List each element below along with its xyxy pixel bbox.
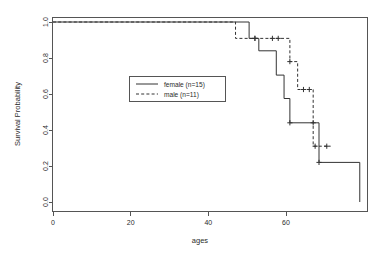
legend: female (n=15) male (n=11) <box>130 77 226 102</box>
y-tick-label: 0.4 <box>42 125 49 135</box>
y-tick-label: 1.0 <box>42 17 49 27</box>
series-female <box>53 22 360 202</box>
legend-label-female: female (n=15) <box>164 81 205 89</box>
censor-mark-icon <box>276 36 281 41</box>
censor-mark-icon <box>287 120 292 125</box>
censor-mark-icon <box>270 36 275 41</box>
y-tick-label: 0.2 <box>42 161 49 171</box>
y-axis-ticks: 0.00.20.40.60.81.0 <box>42 17 53 207</box>
survival-curve <box>53 22 360 202</box>
y-tick-label: 0.0 <box>42 197 49 207</box>
censor-mark-icon <box>307 87 312 92</box>
x-tick-label: 60 <box>282 219 290 226</box>
censor-mark-icon <box>301 87 306 92</box>
x-tick-label: 20 <box>127 219 135 226</box>
censor-mark-icon <box>316 160 321 165</box>
plot-frame <box>53 18 368 212</box>
censor-mark-icon <box>287 59 292 64</box>
censor-mark-icon <box>324 144 329 149</box>
survival-chart: 0.00.20.40.60.81.0 0204060 female (n=15)… <box>0 0 384 257</box>
y-tick-label: 0.8 <box>42 53 49 63</box>
x-axis-ticks: 0204060 <box>51 212 290 226</box>
y-tick-label: 0.6 <box>42 89 49 99</box>
chart-canvas: 0.00.20.40.60.81.0 0204060 female (n=15)… <box>0 0 384 257</box>
x-axis-title: ages <box>192 236 209 245</box>
y-axis-title: Survival Probability <box>13 82 22 146</box>
x-tick-label: 0 <box>51 219 55 226</box>
legend-label-male: male (n=11) <box>164 91 199 99</box>
censor-mark-icon <box>252 36 257 41</box>
x-tick-label: 40 <box>204 219 212 226</box>
series-layer <box>53 22 360 202</box>
